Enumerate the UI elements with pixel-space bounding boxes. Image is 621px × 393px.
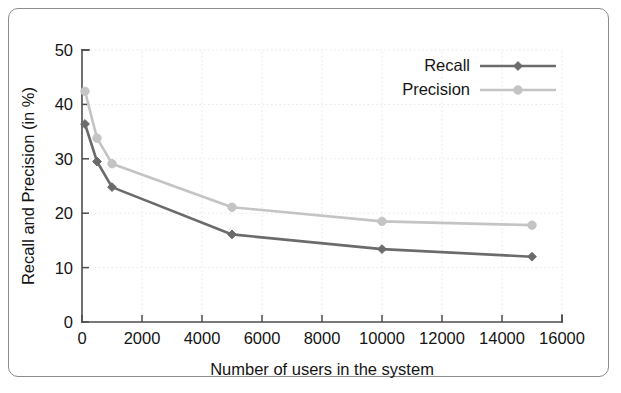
data-point-precision-2 [108, 159, 116, 167]
y-tick-label: 50 [55, 41, 73, 59]
data-point-recall-5 [528, 252, 537, 261]
y-axis-title: Recall and Precision (in %) [19, 87, 37, 285]
x-axis-title: Number of users in the system [210, 360, 434, 378]
x-tick-label: 8000 [304, 329, 341, 347]
series-line-precision [85, 91, 532, 225]
x-axis-tick-labels-group: 0200040006000800010000120001400016000 [77, 329, 585, 347]
series-recall [81, 120, 537, 262]
y-tick-label: 10 [55, 259, 73, 277]
legend-label-precision: Precision [402, 80, 470, 98]
data-series-group [81, 87, 537, 261]
series-line-recall [85, 124, 532, 257]
x-axis-ticks-group [82, 315, 562, 322]
x-tick-label: 0 [77, 329, 86, 347]
y-tick-label: 40 [55, 95, 73, 113]
x-tick-label: 14000 [479, 329, 525, 347]
data-point-recall-4 [378, 245, 387, 254]
data-point-precision-5 [528, 221, 536, 229]
legend-label-recall: Recall [424, 56, 470, 74]
legend-entry-precision[interactable]: Precision [402, 80, 556, 98]
data-point-precision-1 [93, 134, 101, 142]
chart-svg: 01020304050 0200040006000800010000120001… [0, 0, 621, 393]
x-tick-label: 10000 [359, 329, 405, 347]
legend-swatch-marker-recall [514, 62, 523, 71]
chart-legend: RecallPrecision [402, 56, 556, 98]
legend-swatch-marker-precision [514, 86, 522, 94]
legend-entry-recall[interactable]: Recall [424, 56, 556, 74]
x-tick-label: 6000 [244, 329, 281, 347]
data-point-precision-0 [81, 87, 89, 95]
data-point-recall-3 [228, 230, 237, 239]
x-tick-label: 2000 [124, 329, 161, 347]
x-tick-label: 4000 [184, 329, 221, 347]
chart-figure: 01020304050 0200040006000800010000120001… [0, 0, 621, 393]
x-tick-label: 12000 [419, 329, 465, 347]
y-axis-tick-labels-group: 01020304050 [55, 41, 73, 331]
data-point-precision-4 [378, 217, 386, 225]
y-tick-label: 20 [55, 204, 73, 222]
x-tick-label: 16000 [539, 329, 585, 347]
y-tick-label: 0 [64, 313, 73, 331]
series-precision [81, 87, 536, 229]
y-tick-label: 30 [55, 150, 73, 168]
data-point-precision-3 [228, 203, 236, 211]
